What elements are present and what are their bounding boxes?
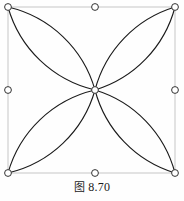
handle-top-right[interactable] [172,4,179,11]
handle-middle-right[interactable] [172,87,179,94]
selection-handle-group[interactable] [5,4,179,177]
figure-caption: 图 8.70 [0,180,184,195]
petal-bottom-right[interactable] [95,90,175,173]
petal-bottom-left[interactable] [8,90,95,173]
handle-bottom-center[interactable] [92,170,99,177]
figure-container: 图 8.70 [0,0,184,201]
drawing-canvas[interactable] [0,0,184,178]
figure-caption-number-value: 8.70 [88,180,110,194]
petal-top-left[interactable] [8,7,95,90]
handle-top-center[interactable] [92,4,99,11]
figure-caption-number: 8.70 [85,180,110,194]
handle-middle-left[interactable] [5,87,12,94]
handle-bottom-left[interactable] [5,170,12,177]
handle-bottom-right[interactable] [172,170,179,177]
handle-center[interactable] [92,87,99,94]
handle-top-left[interactable] [5,4,12,11]
figure-caption-label: 图 [74,181,85,194]
petal-top-right[interactable] [95,7,175,90]
